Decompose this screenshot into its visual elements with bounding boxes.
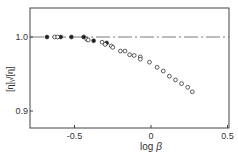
- open-data-point: [111, 45, 115, 49]
- open-data-point: [180, 82, 184, 86]
- open-data-point: [132, 54, 136, 58]
- y-tick-label: 0.9: [15, 106, 28, 116]
- data-points: [45, 35, 194, 94]
- plot-frame: [30, 8, 229, 128]
- filled-data-point: [69, 35, 73, 39]
- filled-data-point: [45, 35, 49, 39]
- open-data-point: [138, 57, 142, 61]
- open-data-point: [119, 49, 123, 53]
- open-data-point: [190, 90, 194, 94]
- x-axis-label: log β: [140, 141, 162, 152]
- open-data-point: [128, 53, 132, 57]
- open-data-point: [103, 43, 107, 47]
- open-data-point: [123, 49, 127, 53]
- open-data-point: [56, 35, 60, 39]
- filled-data-point: [92, 39, 96, 43]
- y-axis-label: [η]ᵧ/[η]: [5, 67, 15, 92]
- x-tick-label: 0.5: [221, 131, 234, 141]
- x-axis-ticks: -0.500.5: [67, 125, 234, 141]
- open-data-point: [174, 78, 178, 82]
- open-data-point: [86, 38, 90, 42]
- y-tick-label: 1.0: [15, 32, 28, 42]
- open-data-point: [155, 65, 159, 69]
- x-tick-label: 0: [148, 131, 153, 141]
- open-data-point: [148, 60, 152, 64]
- x-tick-label: -0.5: [67, 131, 83, 141]
- open-data-point: [167, 74, 171, 78]
- open-data-point: [186, 85, 190, 89]
- chart: -0.500.5 0.91.0 log β [η]ᵧ/[η]: [0, 0, 238, 155]
- open-data-point: [161, 69, 165, 73]
